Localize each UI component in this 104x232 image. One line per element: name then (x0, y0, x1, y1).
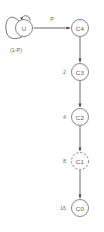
edge-label-self-loop: (1-P) (10, 47, 22, 53)
node-c3[interactable]: C3 (72, 64, 89, 81)
side-label-c0: 16 (60, 205, 66, 211)
node-c4-label: C4 (76, 25, 85, 32)
side-label-c3: 2 (63, 69, 66, 75)
node-u[interactable]: U (16, 20, 33, 37)
node-c2[interactable]: C2 (72, 109, 89, 126)
node-c1[interactable]: C1 (72, 153, 89, 170)
node-c0[interactable]: C0 (72, 200, 89, 217)
node-c0-label: C0 (76, 205, 85, 212)
node-u-label: U (22, 25, 27, 32)
state-diagram: (1-P) P U C4 C3 C2 (0, 0, 104, 232)
diagram-canvas: (1-P) P U C4 C3 C2 (0, 0, 104, 232)
side-label-c1: 8 (63, 158, 66, 164)
edge-label-p: P (50, 16, 54, 22)
side-label-c2: 4 (63, 114, 66, 120)
node-c4[interactable]: C4 (72, 20, 89, 37)
node-c1-label: C1 (76, 158, 85, 165)
node-c2-label: C2 (76, 114, 85, 121)
node-c3-label: C3 (76, 69, 85, 76)
